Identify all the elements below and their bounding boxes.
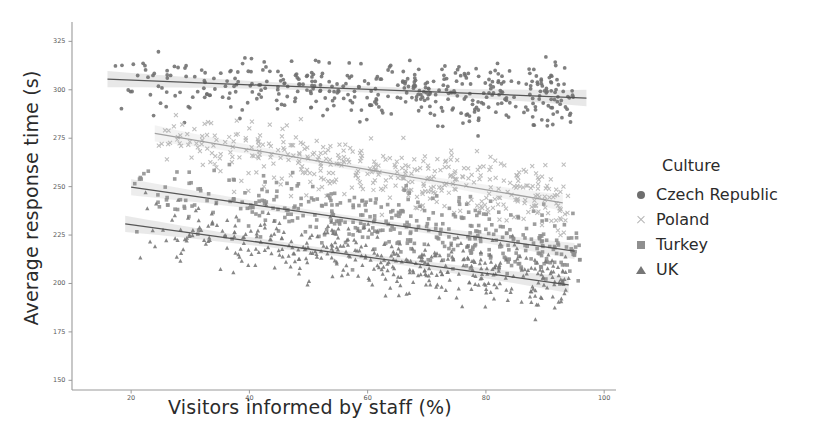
y-tick-label: 300 xyxy=(40,86,66,94)
circle-marker-icon xyxy=(626,191,656,199)
x-tick-label: 20 xyxy=(118,394,144,402)
legend-item-poland[interactable]: Poland xyxy=(626,207,806,232)
y-tick-label: 175 xyxy=(40,328,66,336)
x-tick-label: 60 xyxy=(355,394,381,402)
y-tick-label: 225 xyxy=(40,231,66,239)
x-axis-label: Visitors informed by staff (%) xyxy=(0,396,620,418)
y-tick-label: 275 xyxy=(40,134,66,142)
y-tick-label: 250 xyxy=(40,183,66,191)
y-tick-label: 150 xyxy=(40,376,66,384)
legend-item-turkey[interactable]: Turkey xyxy=(626,232,806,257)
legend-label-poland: Poland xyxy=(656,210,709,229)
y-axis-label: Average response time (s) xyxy=(20,28,42,368)
x-marker-icon xyxy=(626,215,656,225)
legend-label-turkey: Turkey xyxy=(656,235,708,254)
triangle-marker-icon xyxy=(626,266,656,274)
x-tick-label: 100 xyxy=(591,394,617,402)
legend-title: Culture xyxy=(662,156,806,175)
legend: Culture Czech Republic Poland Turkey UK xyxy=(626,156,806,282)
scatter-plot-figure: Visitors informed by staff (%) Average r… xyxy=(0,0,818,446)
x-tick-label: 80 xyxy=(473,394,499,402)
y-tick-label: 325 xyxy=(40,37,66,45)
legend-label-czech-republic: Czech Republic xyxy=(656,185,778,204)
y-tick-label: 200 xyxy=(40,279,66,287)
legend-label-uk: UK xyxy=(656,260,678,279)
confidence-bands xyxy=(107,71,586,293)
x-tick-label: 40 xyxy=(236,394,262,402)
legend-item-czech-republic[interactable]: Czech Republic xyxy=(626,182,806,207)
square-marker-icon xyxy=(626,241,656,249)
legend-item-uk[interactable]: UK xyxy=(626,257,806,282)
